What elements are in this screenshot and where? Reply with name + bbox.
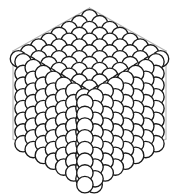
sphere	[77, 176, 93, 192]
sphere-packing-diagram	[0, 0, 179, 195]
close-packed-cube-figure	[0, 0, 179, 195]
